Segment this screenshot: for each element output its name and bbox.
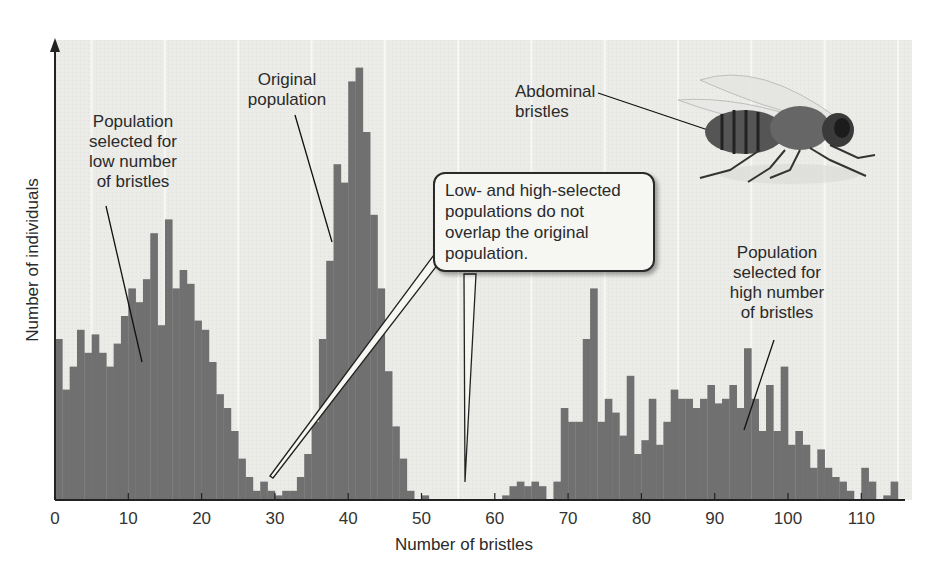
callout-no-overlap: Low- and high-selected populations do no… <box>433 172 655 272</box>
histogram-bar <box>707 385 715 500</box>
histogram-bar <box>392 426 400 500</box>
label-original-population: Original population <box>232 70 342 110</box>
histogram-bar <box>231 431 239 500</box>
x-tick-label: 90 <box>705 509 724 528</box>
histogram-bar <box>781 367 789 500</box>
histogram-bar <box>407 491 415 500</box>
histogram-bar <box>224 408 232 500</box>
label-low-population: Population selected for low number of br… <box>68 112 198 192</box>
x-tick-label: 80 <box>632 509 651 528</box>
histogram-bar <box>773 431 781 500</box>
histogram-bar <box>751 399 759 500</box>
y-axis-label: Number of individuals <box>23 165 43 355</box>
x-tick-label: 10 <box>119 509 138 528</box>
histogram-bar <box>260 482 268 500</box>
label-abdominal-bristles: Abdominal bristles <box>515 82 605 122</box>
histogram-bar <box>678 399 686 500</box>
histogram-bar <box>282 491 290 500</box>
x-tick-labels: 0102030405060708090100110 <box>50 509 875 528</box>
histogram-bar <box>715 403 723 500</box>
histogram-bar <box>297 477 305 500</box>
histogram-bar <box>238 459 246 500</box>
histogram-bar <box>663 422 671 500</box>
histogram-bar <box>202 330 210 500</box>
histogram-bar <box>341 183 349 500</box>
histogram-bar <box>172 288 180 500</box>
histogram-bar <box>77 330 85 500</box>
histogram-bar <box>627 376 635 500</box>
histogram-bar <box>363 132 371 500</box>
x-tick-label: 20 <box>192 509 211 528</box>
x-tick-label: 40 <box>339 509 358 528</box>
histogram-bar <box>253 491 261 500</box>
histogram-bar <box>216 394 224 500</box>
histogram-bar <box>290 491 298 500</box>
histogram-bar <box>150 233 158 500</box>
histogram-bar <box>612 413 620 500</box>
histogram-bar <box>348 81 356 500</box>
histogram-bar <box>737 408 745 500</box>
histogram-bar <box>524 486 532 500</box>
histogram-bar <box>312 422 320 500</box>
x-tick-label: 70 <box>559 509 578 528</box>
histogram-bar <box>649 399 657 500</box>
histogram-bar <box>268 491 276 500</box>
histogram-bar <box>810 468 818 500</box>
histogram-bar <box>847 491 855 500</box>
histogram-bar <box>825 468 833 500</box>
histogram-bar <box>832 477 840 500</box>
histogram-bar <box>180 270 188 500</box>
histogram-bar <box>356 68 364 500</box>
histogram-bar <box>619 436 627 500</box>
x-tick-label: 60 <box>485 509 504 528</box>
histogram-bar <box>685 399 693 500</box>
histogram-bar <box>304 454 312 500</box>
histogram-bar <box>553 482 561 500</box>
histogram-bar <box>869 482 877 500</box>
histogram-bar <box>671 390 679 500</box>
histogram-bar <box>795 431 803 500</box>
histogram-bar <box>84 353 92 500</box>
histogram-bar <box>722 399 730 500</box>
histogram-bar <box>583 339 591 500</box>
x-tick-label: 50 <box>412 509 431 528</box>
histogram-bar <box>143 279 151 500</box>
histogram-bar <box>187 284 195 500</box>
histogram-bar <box>759 431 767 500</box>
histogram-bar <box>641 440 649 500</box>
histogram-bar <box>605 399 613 500</box>
histogram-bar <box>634 454 642 500</box>
x-tick-label: 110 <box>848 509 875 528</box>
histogram-bar <box>319 339 327 500</box>
x-tick-label: 30 <box>265 509 284 528</box>
histogram-bar <box>656 445 664 500</box>
histogram-bar <box>136 302 144 500</box>
histogram-bar <box>378 288 386 500</box>
histogram-bar <box>92 334 100 500</box>
histogram-bar <box>385 371 393 500</box>
histogram-bar <box>700 399 708 500</box>
histogram-bar <box>158 325 166 500</box>
histogram-bar <box>766 385 774 500</box>
histogram-bar <box>509 486 517 500</box>
histogram-bar <box>817 449 825 500</box>
histogram-bar <box>121 316 129 500</box>
histogram-bar <box>400 459 408 500</box>
histogram-bar <box>370 215 378 500</box>
histogram-bar <box>788 445 796 500</box>
histogram-bar <box>531 482 539 500</box>
histogram-bar <box>729 385 737 500</box>
x-tick-label: 0 <box>50 509 59 528</box>
histogram-bar <box>693 408 701 500</box>
histogram-bar <box>62 390 70 500</box>
histogram-bar <box>106 367 114 500</box>
histogram-bar <box>568 422 576 500</box>
histogram-bar <box>891 482 899 500</box>
histogram-bar <box>194 321 202 500</box>
x-tick-label: 100 <box>774 509 802 528</box>
histogram-bar <box>99 353 107 500</box>
histogram-bar <box>114 344 122 500</box>
histogram-bar <box>590 288 598 500</box>
label-high-population: Population selected for high number of b… <box>712 243 842 323</box>
histogram-bar <box>517 482 525 500</box>
